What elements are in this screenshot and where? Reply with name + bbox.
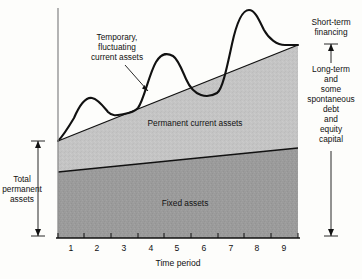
x-tick-label-5: 5	[175, 243, 180, 253]
x-tick-label-2: 2	[95, 243, 100, 253]
temporary-annotation-line-3: current assets	[91, 52, 143, 62]
short-term-line-1: Short-term	[311, 17, 350, 27]
x-tick-label-1: 1	[69, 243, 74, 253]
long-term-line-1: Long-term	[312, 64, 350, 74]
x-tick-label-4: 4	[149, 243, 154, 253]
x-axis-title: Time period	[155, 258, 200, 268]
long-term-line-3: some	[321, 84, 342, 94]
long-term-line-8: capital	[319, 134, 343, 144]
long-term-line-4: spontaneous	[307, 94, 355, 104]
x-tick-label-6: 6	[202, 243, 207, 253]
working-capital-diagram: 1 2 3 4 5 6 7 8 9 Time period Permanent …	[0, 0, 362, 279]
short-term-line-2: financing	[314, 27, 348, 37]
permanent-current-assets-label: Permanent current assets	[148, 118, 243, 128]
long-term-line-6: and	[324, 114, 338, 124]
x-tick-label-7: 7	[229, 243, 234, 253]
temporary-annotation-line-2: fluctuating	[98, 42, 136, 52]
long-term-line-5: debt	[323, 104, 340, 114]
left-label-line-2: permanent	[2, 184, 42, 194]
x-tick-label-9: 9	[282, 243, 287, 253]
x-tick-label-8: 8	[255, 243, 260, 253]
temporary-current-assets-annotation: Temporary, fluctuating current assets	[91, 32, 143, 62]
short-term-financing-label: Short-term financing	[311, 17, 350, 37]
x-tick-label-3: 3	[122, 243, 127, 253]
long-term-line-7: equity	[320, 124, 343, 134]
left-label-line-3: assets	[10, 194, 34, 204]
fixed-assets-label: Fixed assets	[162, 198, 209, 208]
long-term-line-2: and	[324, 74, 338, 84]
temporary-annotation-line-1: Temporary,	[97, 32, 138, 42]
left-label-line-1: Total	[13, 174, 31, 184]
